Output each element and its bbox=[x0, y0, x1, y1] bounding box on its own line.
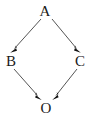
edge-c-to-o bbox=[52, 69, 77, 100]
node-label-a: A bbox=[35, 4, 55, 19]
edge-b-to-o bbox=[14, 69, 42, 100]
node-label-c: C bbox=[70, 54, 90, 69]
node-label-b: B bbox=[1, 54, 21, 69]
edge-c-to-o-arrowhead bbox=[52, 92, 58, 100]
edge-a-to-c-arrowhead bbox=[74, 45, 81, 52]
diagram-canvas: A B C O bbox=[0, 0, 95, 124]
edge-a-to-c-line bbox=[52, 19, 77, 49]
edge-a-to-b-line bbox=[15, 19, 42, 49]
edge-c-to-o-line bbox=[56, 69, 77, 96]
edge-b-to-o-arrowhead bbox=[35, 92, 42, 100]
node-label-o: O bbox=[36, 101, 56, 116]
edge-a-to-b-arrowhead bbox=[10, 46, 17, 53]
edge-b-to-o-line bbox=[14, 69, 38, 96]
edge-a-to-b bbox=[10, 19, 41, 53]
edge-a-to-c bbox=[52, 19, 81, 53]
